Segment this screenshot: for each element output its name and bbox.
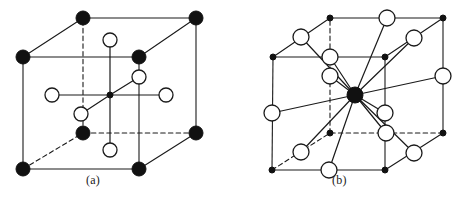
open-atom-edge-mid-back-top — [379, 10, 395, 26]
cube-edge-bottom-left-diagonal — [23, 133, 83, 169]
cube-edge-top-right-diagonal — [139, 18, 196, 57]
open-atom-edge-mid-bottom-right-diagonal — [406, 145, 422, 161]
open-atom-edge-mid-right-front-vertical — [377, 105, 393, 121]
cube-edge-bottom-right-diagonal — [139, 133, 196, 169]
filled-atom-corner-back-top-left — [327, 15, 333, 21]
panel-b-caption: (b) — [332, 173, 347, 188]
filled-atom-body-centre-atom — [107, 92, 113, 98]
filled-atom-corner-front-bottom-left — [16, 162, 30, 176]
filled-atom-corner-back-top-right — [440, 15, 446, 21]
filled-atom-corner-back-bottom-left — [327, 130, 333, 136]
open-atom-edge-mid-top-right-diagonal — [406, 30, 422, 46]
filled-atom-corner-front-bottom-right — [382, 167, 388, 173]
bond-line-6 — [272, 95, 355, 113]
bond-line-5 — [355, 76, 443, 95]
panel-b-diagram — [233, 0, 466, 202]
open-atom-edge-mid-left-vertical-upper — [322, 68, 338, 84]
open-atom-edge-mid-top-front-back-left — [322, 49, 338, 65]
open-atom-face-centre-bottom — [103, 143, 117, 157]
filled-atom-corner-back-bottom-right — [189, 126, 203, 140]
filled-atom-corner-back-bottom-left — [76, 126, 90, 140]
filled-atom-corner-back-top-right — [189, 11, 203, 25]
open-atom-face-centre-front — [74, 107, 88, 121]
open-atom-face-centre-right — [159, 88, 173, 102]
filled-atom-corner-front-top-right — [382, 54, 388, 60]
filled-atom-corner-back-bottom-right — [440, 130, 446, 136]
figure-root: (a) (b) — [0, 0, 466, 202]
filled-atom-corner-front-bottom-left — [269, 167, 275, 173]
filled-atom-corner-front-top-left — [270, 54, 276, 60]
open-atom-face-centre-left — [45, 88, 59, 102]
filled-atom-corner-back-top-left — [76, 11, 90, 25]
bond-line-1 — [301, 37, 355, 95]
open-atom-face-centre-back — [132, 70, 146, 84]
panel-a-diagram — [0, 0, 233, 202]
open-atom-edge-mid-left-front-vertical — [264, 105, 280, 121]
panel-a-caption: (a) — [86, 173, 100, 188]
cube-edge-top-left-diagonal — [23, 18, 83, 57]
open-atom-edge-mid-back-bottom-centre — [378, 125, 394, 141]
open-atom-face-centre-top — [103, 33, 117, 47]
filled-atom-corner-front-top-left — [16, 50, 30, 64]
open-atom-edge-mid-right-vertical-upper — [435, 68, 451, 84]
filled-atom-central-atom — [347, 87, 363, 103]
open-atom-edge-mid-top-left-diagonal — [293, 29, 309, 45]
filled-atom-corner-front-bottom-right — [132, 162, 146, 176]
bond-line-9 — [301, 95, 355, 152]
open-atom-edge-mid-bottom-left-diagonal — [293, 144, 309, 160]
filled-atom-corner-front-top-right — [132, 50, 146, 64]
